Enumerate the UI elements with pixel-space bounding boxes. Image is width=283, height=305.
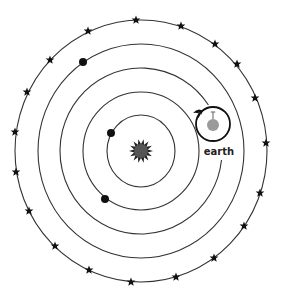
star-icon	[25, 206, 34, 214]
star-icon	[211, 39, 220, 47]
planets	[79, 58, 115, 203]
star-icon	[51, 241, 60, 249]
star-icon	[132, 15, 141, 23]
sun-core	[134, 144, 148, 158]
earth-label: earth	[204, 146, 234, 157]
sun-icon	[129, 139, 153, 162]
star-icon	[127, 277, 136, 285]
planet-dot	[79, 58, 87, 66]
star-icon	[12, 167, 21, 175]
star-icon	[11, 127, 20, 135]
star-icon	[251, 93, 260, 101]
star-icon	[172, 272, 181, 280]
star-icon	[85, 265, 94, 273]
planet-dot	[101, 195, 109, 203]
earth-planet-icon	[207, 119, 219, 131]
planet-dot	[107, 129, 115, 137]
star-icon	[262, 138, 271, 146]
orbit-diagram: earth	[0, 0, 283, 305]
